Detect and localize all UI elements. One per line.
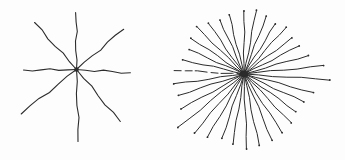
right-star-ray-tip-dot bbox=[274, 23, 276, 25]
right-star-ray-tip-dot bbox=[190, 37, 192, 39]
scanned-drawing-page bbox=[0, 0, 345, 160]
right-star-ray-tip-dot bbox=[258, 145, 260, 147]
right-star-ray bbox=[244, 65, 324, 74]
left-star-figure bbox=[21, 13, 130, 142]
right-star-ray-tip-dot bbox=[188, 49, 190, 51]
right-star-ray bbox=[244, 10, 257, 74]
right-star-ray bbox=[197, 27, 244, 75]
right-star-ray bbox=[244, 74, 272, 140]
right-star-ray-tip-dot bbox=[291, 37, 293, 39]
right-star-ray bbox=[195, 74, 244, 133]
right-star-ray-tip-dot bbox=[298, 45, 300, 47]
left-star-ray bbox=[24, 69, 77, 71]
right-star-ray-tip-dot bbox=[323, 65, 325, 67]
right-star-ray-tip-dot bbox=[329, 79, 331, 81]
right-star-ray-tip-dot bbox=[265, 15, 267, 17]
left-star-ray bbox=[21, 70, 76, 115]
right-star-center-blob bbox=[240, 71, 249, 77]
right-star-ray-tip-dot bbox=[232, 143, 234, 145]
right-star-ray-tip-dot bbox=[243, 10, 245, 12]
right-star-ray-tip-dot bbox=[196, 26, 198, 28]
right-star-ray-tip-dot bbox=[178, 94, 180, 96]
right-star-ray-tip-dot bbox=[246, 148, 248, 150]
right-star-ray-tip-dot bbox=[281, 132, 283, 134]
right-star-ray bbox=[178, 74, 244, 95]
right-star-ray-tip-dot bbox=[256, 9, 258, 11]
right-star-ray bbox=[244, 27, 286, 74]
right-star-ray-tip-dot bbox=[194, 132, 196, 134]
left-star-ray bbox=[35, 23, 77, 70]
right-star-ray-tip-dot bbox=[182, 59, 184, 61]
right-star-ray-tip-dot bbox=[303, 101, 305, 103]
right-star-ray-tip-dot bbox=[295, 111, 297, 113]
left-star-center-dot bbox=[75, 68, 79, 72]
left-star-ray bbox=[76, 13, 78, 70]
right-star-ray-tip-dot bbox=[228, 14, 230, 16]
right-star-ray bbox=[243, 11, 244, 74]
figures-canvas bbox=[0, 0, 345, 160]
right-star-ray-tip-dot bbox=[271, 139, 273, 141]
right-star-ray bbox=[244, 74, 291, 123]
right-star-ray-tip-dot bbox=[180, 108, 182, 110]
right-star-ray bbox=[183, 60, 244, 74]
right-star-ray-tip-dot bbox=[219, 19, 221, 21]
right-star-ray-tip-dot bbox=[290, 122, 292, 124]
right-star-ray-tip-dot bbox=[173, 83, 175, 85]
right-star-ray-tip-dot bbox=[285, 26, 287, 28]
right-star-ray-tip-dot bbox=[313, 92, 315, 94]
right-star-ray-tip-dot bbox=[177, 127, 179, 129]
left-star-ray bbox=[77, 29, 124, 69]
right-star-ray bbox=[244, 74, 247, 149]
right-star-ray-tip-dot bbox=[207, 136, 209, 138]
right-star-figure bbox=[173, 9, 331, 150]
left-star-ray bbox=[77, 70, 121, 122]
left-star-ray bbox=[76, 70, 79, 142]
right-star-ray-tip-dot bbox=[208, 22, 210, 24]
right-star-ray-tip-dot bbox=[221, 137, 223, 139]
left-star-ray bbox=[77, 70, 131, 74]
right-star-ray-tip-dot bbox=[308, 55, 310, 57]
